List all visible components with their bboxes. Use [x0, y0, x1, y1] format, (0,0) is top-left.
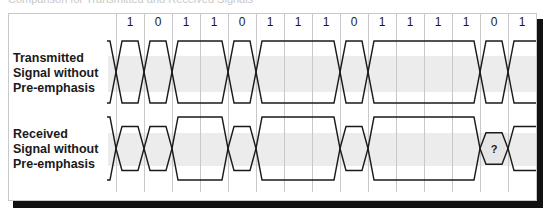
bit-label: 1 [183, 15, 190, 29]
bit-label: 1 [127, 15, 134, 29]
bit-label: 1 [463, 15, 470, 29]
bit-label: 0 [155, 15, 162, 29]
annotations: ? [491, 143, 498, 155]
bit-labels: 101101110111101 [127, 15, 526, 29]
waveform-diagram: 101101110111101 ? [0, 0, 550, 210]
bit-label: 1 [323, 15, 330, 29]
bit-label: 0 [351, 15, 358, 29]
unknown-bit-marker: ? [491, 143, 498, 155]
bit-label: 0 [491, 15, 498, 29]
bit-label: 1 [211, 15, 218, 29]
bit-label: 1 [379, 15, 386, 29]
bit-label: 0 [239, 15, 246, 29]
bit-label: 1 [519, 15, 526, 29]
bit-label: 1 [407, 15, 414, 29]
bit-label: 1 [435, 15, 442, 29]
bit-label: 1 [295, 15, 302, 29]
bit-label: 1 [267, 15, 274, 29]
